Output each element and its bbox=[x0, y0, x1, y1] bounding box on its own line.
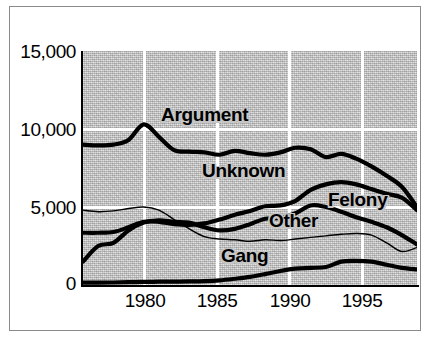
y-axis-tick-15000: 15,000 bbox=[10, 41, 76, 63]
x-axis-tick-1995: 1995 bbox=[342, 290, 383, 312]
series-label-felony: Felony bbox=[328, 189, 387, 211]
x-axis-tick-1985: 1985 bbox=[197, 290, 238, 312]
series-label-unknown: Unknown bbox=[202, 160, 285, 182]
x-axis-tick-1990: 1990 bbox=[270, 290, 311, 312]
series-label-gang: Gang bbox=[221, 245, 268, 267]
figure-frame: 15,000 10,000 5,000 0 1980 1985 1990 199… bbox=[9, 6, 421, 331]
y-axis-tick-0: 0 bbox=[10, 273, 76, 295]
chart-figure: 15,000 10,000 5,000 0 1980 1985 1990 199… bbox=[0, 0, 431, 339]
series-label-argument: Argument bbox=[161, 104, 248, 126]
x-axis-line bbox=[81, 285, 419, 287]
x-axis-tick-1980: 1980 bbox=[125, 290, 166, 312]
y-axis-tick-10000: 10,000 bbox=[10, 119, 76, 141]
series-label-other: Other bbox=[269, 210, 318, 232]
y-axis-tick-5000: 5,000 bbox=[10, 197, 76, 219]
